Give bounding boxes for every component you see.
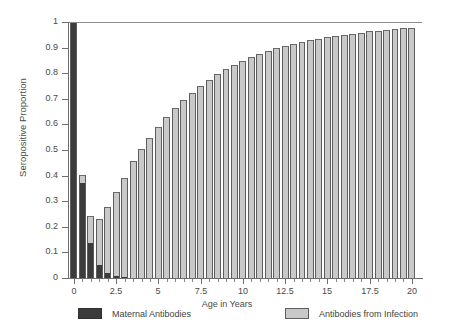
x-axis-minor-tick [403,279,404,282]
bar-segment-infection [104,207,111,274]
bar-segment-infection [290,44,297,278]
x-axis-minor-tick [133,279,134,282]
bar-column [104,207,111,278]
y-axis-tick [62,150,68,151]
bar-column [256,54,263,278]
bar-segment-infection [172,108,179,278]
bar-column [96,219,103,278]
x-axis-minor-tick [150,279,151,282]
bar-segment-infection [231,65,238,278]
bar-column [206,80,213,278]
bar-segment-infection [239,61,246,278]
y-axis-tick-label: 0.5 [45,145,58,154]
bar-column [315,39,322,278]
seroprevalence-bar-chart: Seropositive Proportion Age in Years Mat… [0,0,454,332]
y-axis-tick [62,227,68,228]
bar-column [130,161,137,278]
bar-column [113,192,120,278]
x-axis-tick [370,279,371,284]
bar-column [197,86,204,279]
plot-top-border [68,22,422,23]
bar-segment-infection [155,127,162,278]
x-axis-minor-tick [226,279,227,282]
y-axis-tick-label: 0.8 [45,68,58,77]
x-axis-minor-tick [319,279,320,282]
bar-segment-infection [349,34,356,278]
x-axis-tick-label: 15 [322,286,332,296]
y-axis-tick [62,278,68,279]
x-axis-tick [412,279,413,284]
bar-segment-infection [130,161,137,277]
bar-column [248,57,255,278]
bar-segment-maternal [79,183,86,278]
bar-column [349,34,356,278]
x-axis-minor-tick [209,279,210,282]
bar-segment-infection [121,178,128,277]
legend-label-infection: Antibodies from Infection [319,309,418,319]
bar-column [223,69,230,278]
bar-column [79,175,86,278]
x-axis-tick [201,279,202,284]
bar-segment-infection [273,48,280,278]
y-axis-tick [62,124,68,125]
bar-column [180,100,187,278]
x-axis-tick-label: 5 [155,286,160,296]
bar-segment-infection [315,39,322,278]
bar-column [163,117,170,278]
x-axis-minor-tick [251,279,252,282]
bar-column [358,33,365,279]
x-axis-tick [243,279,244,284]
bar-column [383,30,390,278]
x-axis-tick-label: 7.5 [195,286,208,296]
bar-column [324,37,331,278]
y-axis-tick [62,48,68,49]
bar-column [231,65,238,278]
bar-column [146,138,153,278]
bar-segment-infection [248,57,255,278]
x-axis-minor-tick [142,279,143,282]
x-axis-tick [285,279,286,284]
bar-column [265,51,272,278]
x-axis-minor-tick [353,279,354,282]
bar-segment-infection [223,69,230,278]
bar-segment-infection [87,216,94,243]
legend-swatch-maternal-icon [78,308,102,319]
bar-segment-infection [307,40,314,278]
bar-segment-infection [214,74,221,278]
x-axis-tick-label: 0 [71,286,76,296]
bar-segment-infection [400,28,407,278]
x-axis-minor-tick [167,279,168,282]
bar-segment-infection [113,192,120,276]
x-axis-minor-tick [268,279,269,282]
bar-column [282,46,289,278]
bar-segment-infection [332,36,339,278]
bar-segment-infection [206,80,213,278]
y-axis-tick-label: 0.3 [45,196,58,205]
x-axis-minor-tick [395,279,396,282]
plot-area [68,22,422,278]
bar-column [307,40,314,278]
legend-label-maternal: Maternal Antibodies [112,309,191,319]
y-axis-tick-label: 0 [53,273,58,282]
x-axis-minor-tick [387,279,388,282]
y-axis-tick [62,176,68,177]
x-axis-tick-label: 10 [238,286,248,296]
bar-segment-infection [163,117,170,278]
y-axis-tick [62,99,68,100]
bar-segment-maternal [70,22,77,278]
y-axis-title: Seropositive Proportion [17,43,28,213]
x-axis-tick-label: 12.5 [276,286,294,296]
bar-column [239,61,246,278]
x-axis-minor-tick [184,279,185,282]
y-axis-tick [62,252,68,253]
bar-column [189,93,196,278]
y-axis-tick-label: 0.1 [45,247,58,256]
bar-segment-infection [358,33,365,279]
x-axis-minor-tick [344,279,345,282]
bar-column [138,149,145,278]
bar-segment-infection [180,100,187,278]
bar-column [366,31,373,278]
x-axis-tick-label: 20 [407,286,417,296]
x-axis-minor-tick [310,279,311,282]
x-axis-minor-tick [234,279,235,282]
